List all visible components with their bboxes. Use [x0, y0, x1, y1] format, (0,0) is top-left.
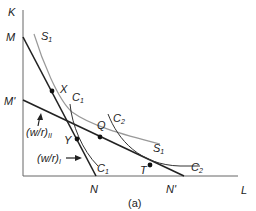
label-s1-top: S1: [41, 30, 52, 43]
label-c2-right: C2: [191, 161, 203, 174]
label-point-x: X: [59, 83, 68, 95]
isoquant-diagram: K L M M' N N' S1 S1 C1 C1 C2 C2 X Y Q T …: [0, 0, 256, 211]
label-n: N: [90, 183, 98, 195]
label-wr-ii: (w/r)II: [26, 126, 52, 139]
label-point-q: Q: [97, 119, 106, 131]
label-c1-bottom: C1: [97, 162, 109, 175]
point-x: [50, 89, 55, 94]
point-q: [98, 135, 103, 140]
label-m-prime: M': [4, 95, 16, 107]
label-wr-i: (w/r)I: [37, 152, 61, 165]
label-c1-top: C1: [72, 91, 84, 104]
arrowhead-wr-ii-icon: [37, 113, 43, 120]
figure-caption: (a): [128, 197, 141, 209]
point-t: [148, 163, 153, 168]
label-s1-right: S1: [153, 142, 164, 155]
label-point-y: Y: [64, 134, 72, 146]
label-point-t: T: [140, 164, 148, 176]
label-m: M: [6, 31, 16, 43]
x-axis-label: L: [241, 184, 247, 196]
label-c2-top: C2: [113, 112, 125, 125]
label-n-prime: N': [166, 183, 177, 195]
isocost-mn: [23, 37, 96, 176]
arrowhead-wr-i-icon: [75, 155, 82, 161]
y-axis-label: K: [8, 6, 16, 18]
point-y: [75, 137, 80, 142]
